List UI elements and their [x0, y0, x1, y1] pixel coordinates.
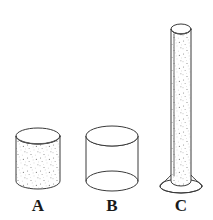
cylinder-b: B: [86, 126, 138, 215]
figure-canvas: A B C: [0, 0, 213, 220]
cylinder-b-label: B: [106, 196, 117, 215]
cylinder-b-top-rim: [86, 126, 138, 146]
cylinder-c: C: [160, 24, 202, 215]
cylinders-diagram: A B C: [0, 0, 213, 220]
cylinder-a-label: A: [32, 196, 45, 215]
cylinder-a: A: [16, 128, 60, 215]
cylinder-c-label: C: [175, 196, 187, 215]
